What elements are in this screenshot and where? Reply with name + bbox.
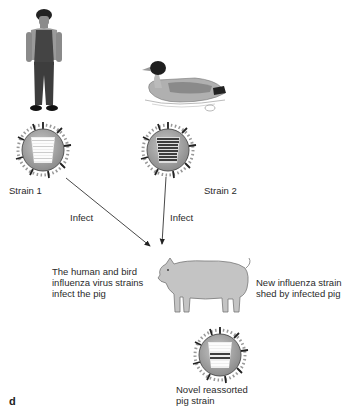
infect-label-2: Infect (170, 212, 193, 223)
strain-2-label: Strain 2 (204, 185, 237, 196)
infection-annotation-line-2: influenza virus strains (52, 277, 143, 288)
novel-strain-virus-icon (193, 327, 248, 383)
strain-2-virus-icon (141, 122, 196, 178)
duck-icon (142, 61, 226, 111)
shedding-annotation: New influenza strain shed by infected pi… (256, 277, 342, 299)
shedding-annotation-line-1: New influenza strain (256, 277, 342, 288)
infection-annotation-line-3: infect the pig (52, 288, 143, 299)
infection-annotation-line-1: The human and bird (52, 266, 143, 277)
strain-1-virus-icon (16, 122, 71, 178)
diagram-canvas (0, 0, 350, 411)
novel-strain-label-line-1: Novel reassorted (176, 384, 248, 395)
panel-label: d (9, 395, 16, 407)
human-icon (26, 9, 62, 111)
strain-1-label: Strain 1 (9, 185, 42, 196)
novel-strain-label: Novel reassorted pig strain (176, 384, 248, 406)
novel-strain-label-line-2: pig strain (176, 395, 248, 406)
pig-icon (158, 258, 250, 312)
infect-arrow-2 (162, 177, 166, 244)
shedding-annotation-line-2: shed by infected pig (256, 288, 342, 299)
infection-annotation: The human and bird influenza virus strai… (52, 266, 143, 299)
infect-label-1: Infect (70, 212, 93, 223)
